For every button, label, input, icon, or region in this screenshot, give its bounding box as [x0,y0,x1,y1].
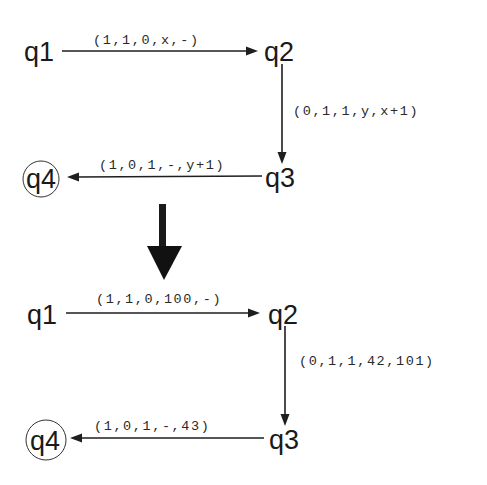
transition-q1-q2: (1,1,0,100,-) [66,292,260,318]
diagram-concrete: q1 q2 q3 q4 (1,1,0,100,-) (0,1,1,42,101)… [26,292,435,460]
transition-q3-q4: (1,0,1,-,43) [70,419,264,443]
transition-label: (0,1,1,42,101) [299,354,435,369]
state-q1: q1 [24,37,54,67]
transition-q1-q2: (1,1,0,x,-) [62,33,258,56]
arrowhead-icon [248,309,260,318]
transition-label: (1,1,0,100,-) [96,292,222,307]
automaton-figure: q1 q2 q3 q4 (1,1,0,x,-) (0,1,1,y,x+1) (1… [0,0,487,485]
transition-q2-q3: (0,1,1,y,x+1) [278,64,420,164]
state-q1: q1 [27,300,57,330]
state-q3: q3 [265,163,295,193]
state-q3: q3 [269,425,299,455]
state-q4: q4 [30,426,60,456]
transition-label: (1,1,0,x,-) [93,33,200,48]
arrowhead-icon [246,47,258,56]
transition-label: (1,0,1,-,43) [94,419,210,434]
transform-arrow-icon [147,204,182,280]
transition-q3-q4: (1,0,1,-,y+1) [67,158,262,182]
arrowhead-icon [67,173,79,182]
transition-q2-q3: (0,1,1,42,101) [281,326,435,426]
arrowhead-icon [70,434,82,443]
state-q2: q2 [268,300,298,330]
diagram-symbolic: q1 q2 q3 q4 (1,1,0,x,-) (0,1,1,y,x+1) (1… [23,33,419,197]
transition-label: (0,1,1,y,x+1) [293,104,419,119]
transition-label: (1,0,1,-,y+1) [99,158,225,173]
state-q2: q2 [264,37,294,67]
state-q4: q4 [26,164,56,194]
